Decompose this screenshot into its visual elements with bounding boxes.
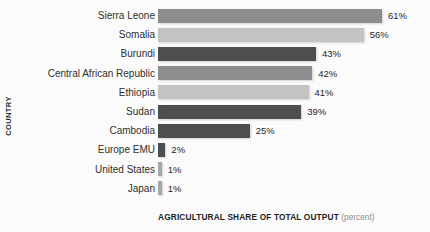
bar bbox=[158, 143, 165, 157]
bar-row: United States1% bbox=[28, 160, 430, 179]
category-label: Central African Republic bbox=[28, 64, 155, 83]
bar-track: 1% bbox=[158, 179, 430, 198]
x-axis-title-text: AGRICULTURAL SHARE OF TOTAL OUTPUT bbox=[158, 212, 339, 222]
category-label: Europe EMU bbox=[28, 140, 155, 159]
agricultural-share-bar-chart: COUNTRY Sierra Leone61%Somalia56%Burundi… bbox=[0, 0, 430, 232]
bar-track: 39% bbox=[158, 102, 430, 121]
bar-track: 2% bbox=[158, 140, 430, 159]
bar-value-label: 2% bbox=[165, 140, 185, 159]
category-label: Ethiopia bbox=[28, 83, 155, 102]
bar-track: 61% bbox=[158, 6, 430, 25]
category-label: United States bbox=[28, 160, 155, 179]
bar-value-label: 61% bbox=[382, 6, 407, 25]
plot-area: Sierra Leone61%Somalia56%Burundi43%Centr… bbox=[28, 6, 430, 211]
bar-value-label: 25% bbox=[250, 121, 275, 140]
bar bbox=[158, 28, 364, 42]
bar bbox=[158, 9, 382, 23]
category-label: Japan bbox=[28, 179, 155, 198]
bar-value-label: 43% bbox=[316, 44, 341, 63]
bar-track: 56% bbox=[158, 25, 430, 44]
category-label: Burundi bbox=[28, 44, 155, 63]
bar-track: 41% bbox=[158, 83, 430, 102]
y-axis-title: COUNTRY bbox=[0, 0, 16, 232]
bar bbox=[158, 124, 250, 138]
category-label: Somalia bbox=[28, 25, 155, 44]
bar-row: Europe EMU2% bbox=[28, 140, 430, 159]
bar-track: 43% bbox=[158, 44, 430, 63]
bar bbox=[158, 105, 301, 119]
bar-value-label: 1% bbox=[162, 160, 182, 179]
bar-row: Japan1% bbox=[28, 179, 430, 198]
bar-row: Somalia56% bbox=[28, 25, 430, 44]
category-label: Sierra Leone bbox=[28, 6, 155, 25]
bar-row: Ethiopia41% bbox=[28, 83, 430, 102]
bar-value-label: 42% bbox=[312, 64, 337, 83]
bar-row: Sierra Leone61% bbox=[28, 6, 430, 25]
bar-row: Cambodia25% bbox=[28, 121, 430, 140]
bar bbox=[158, 85, 309, 99]
bar-value-label: 1% bbox=[162, 179, 182, 198]
bar bbox=[158, 47, 316, 61]
bar bbox=[158, 66, 312, 80]
x-axis-title: AGRICULTURAL SHARE OF TOTAL OUTPUT (perc… bbox=[158, 212, 375, 222]
category-label: Cambodia bbox=[28, 121, 155, 140]
x-axis-unit-text: (percent) bbox=[341, 212, 374, 222]
bar-value-label: 56% bbox=[364, 25, 389, 44]
bar-row: Sudan39% bbox=[28, 102, 430, 121]
bar-value-label: 39% bbox=[301, 102, 326, 121]
category-label: Sudan bbox=[28, 102, 155, 121]
bar-track: 42% bbox=[158, 64, 430, 83]
bar-track: 1% bbox=[158, 160, 430, 179]
bar-track: 25% bbox=[158, 121, 430, 140]
bar-value-label: 41% bbox=[309, 83, 334, 102]
bar-row: Burundi43% bbox=[28, 44, 430, 63]
bar-row: Central African Republic42% bbox=[28, 64, 430, 83]
